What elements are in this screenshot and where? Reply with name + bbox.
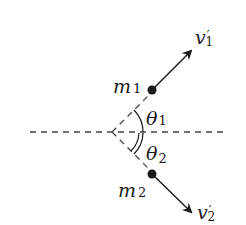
mass-m2-dot <box>148 170 157 179</box>
v2-prime-label: v′2 <box>197 201 215 224</box>
collision-diagram: m1 m2 θ1 θ2 v′1 v′2 <box>0 0 246 225</box>
v2-velocity-arrow <box>152 174 191 212</box>
theta2-arc-inner <box>131 133 139 151</box>
m2-label: m2 <box>118 179 146 201</box>
v1-velocity-arrow <box>152 51 191 90</box>
theta1-arc <box>134 110 143 132</box>
v1-prime-label: v′1 <box>195 26 213 49</box>
theta1-label: θ1 <box>146 107 167 129</box>
theta2-label: θ2 <box>146 142 167 166</box>
mass-m1-dot <box>148 86 157 95</box>
m1-label: m1 <box>113 75 141 97</box>
